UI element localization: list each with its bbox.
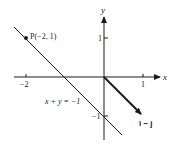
point-p-label: P(−2, 1) <box>30 32 57 41</box>
x-axis-label: x <box>162 72 167 82</box>
vector-i-minus-j: i − j <box>104 77 153 128</box>
line-x-plus-y-eq-neg1: x + y = −1 <box>14 27 122 135</box>
x-tick-label-neg2: −2 <box>20 80 29 89</box>
y-tick-label-1: 1 <box>98 34 102 43</box>
point-p-dot <box>24 36 28 40</box>
line-equation-label: x + y = −1 <box>44 97 80 106</box>
x-tick-label-1: 1 <box>141 80 145 89</box>
point-p: P(−2, 1) <box>24 32 57 41</box>
y-axis-label: y <box>100 5 105 15</box>
vector-arrow <box>104 77 141 114</box>
vector-label: i − j <box>139 119 153 128</box>
coordinate-diagram: x −2 1 y 1 −1 x + y = −1 P(−2, 1) i − j <box>0 0 174 144</box>
y-axis: y 1 −1 <box>92 5 108 140</box>
y-tick-label-neg1: −1 <box>92 112 101 121</box>
x-axis: x −2 1 <box>14 72 167 89</box>
